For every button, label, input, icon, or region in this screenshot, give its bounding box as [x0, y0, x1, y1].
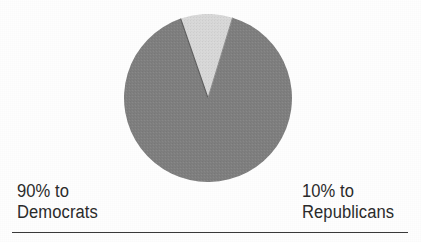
pie-chart-figure: 90% to Democrats 10% to Republicans — [0, 0, 421, 242]
legend-label-republicans: 10% to Republicans — [302, 181, 402, 223]
legend-label-democrats-percent: 90% to — [17, 181, 98, 202]
legend-label-republicans-party: Republicans — [302, 202, 394, 223]
pie-chart-svg — [124, 14, 292, 182]
legend-label-democrats-party: Democrats — [17, 202, 98, 223]
baseline-rule — [12, 232, 408, 233]
legend-label-republicans-percent: 10% to — [302, 181, 394, 202]
pie-chart — [124, 14, 292, 182]
legend-label-democrats: 90% to Democrats — [17, 181, 105, 223]
